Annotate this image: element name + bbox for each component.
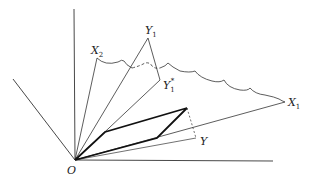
label-y: Y xyxy=(200,135,209,148)
dashed-projection xyxy=(187,108,196,138)
horizontal-axis xyxy=(75,160,273,161)
wavy-boundary-right xyxy=(160,63,285,102)
vertical-axis xyxy=(74,9,75,160)
diagram-canvas: O X2 Y1 Y1* X1 Y xyxy=(0,0,311,179)
label-x2: X2 xyxy=(90,44,103,59)
label-x1: X1 xyxy=(287,96,300,111)
ray-x2 xyxy=(75,58,97,160)
left-axis xyxy=(13,79,75,160)
label-y1: Y1 xyxy=(145,24,157,39)
label-y1star: Y1* xyxy=(163,77,175,94)
wavy-boundary xyxy=(97,58,132,68)
label-origin: O xyxy=(67,164,76,177)
ray-y xyxy=(75,138,196,160)
segment-y1-y1star xyxy=(148,38,160,80)
ray-y1 xyxy=(75,38,148,160)
